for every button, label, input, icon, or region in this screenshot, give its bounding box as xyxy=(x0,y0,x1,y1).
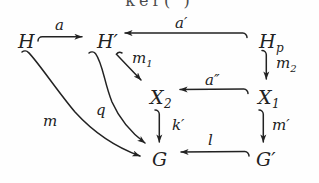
edge-label-a-prime-base: a xyxy=(175,14,184,32)
edge-a-path xyxy=(38,37,82,41)
node-X1-base: X xyxy=(258,86,272,108)
edge-m-path xyxy=(22,51,140,156)
edge-label-m-prime-primes: ′ xyxy=(286,116,289,134)
edge-a-double-prime-path xyxy=(180,89,248,93)
edge-label-m2-subscript: 2 xyxy=(290,63,296,74)
node-X2-subscript: 2 xyxy=(164,97,172,111)
node-G-prime: G′ xyxy=(256,150,276,169)
node-H-prime-mark: ′ xyxy=(114,30,118,52)
node-X1-subscript: 1 xyxy=(272,97,280,111)
edge-label-m-prime: m′ xyxy=(272,118,290,133)
edge-label-a-base: a xyxy=(55,16,64,34)
edge-label-a-double-prime-primes: ″ xyxy=(214,71,220,89)
edge-m-prime-path xyxy=(259,110,263,142)
node-X2: X2 xyxy=(150,88,172,110)
node-X2-base: X xyxy=(150,86,164,108)
edge-label-m-prime-base: m xyxy=(272,116,286,134)
edge-label-m2-base: m xyxy=(276,54,290,72)
edge-label-m1-subscript: 1 xyxy=(146,58,152,69)
edge-m2-path xyxy=(262,51,266,80)
node-G: G xyxy=(152,150,167,169)
node-H-base: H xyxy=(18,30,35,52)
node-X1: X1 xyxy=(258,88,280,110)
node-H-sub-p-base: H xyxy=(259,30,276,52)
edge-label-m2: m2 xyxy=(276,56,297,74)
edge-label-l: l xyxy=(208,133,213,148)
edge-label-m: m xyxy=(43,114,57,129)
node-G-base: G xyxy=(152,148,167,170)
edge-label-q-base: q xyxy=(96,101,106,119)
edge-l-path xyxy=(181,152,249,156)
edge-label-m1: m1 xyxy=(132,51,153,69)
edge-label-k-prime-base: k xyxy=(172,116,181,134)
edge-label-q: q xyxy=(96,103,106,118)
edge-label-k-prime: k′ xyxy=(172,118,185,133)
edge-label-m-base: m xyxy=(43,112,57,130)
edge-label-m1-base: m xyxy=(132,49,146,67)
node-H-sub-p: Hp xyxy=(259,32,284,54)
edge-label-k-prime-primes: ′ xyxy=(181,116,184,134)
edge-label-a-double-prime-base: a xyxy=(205,71,214,89)
node-G-prime-mark: ′ xyxy=(271,148,275,170)
node-H: H xyxy=(18,32,35,51)
edge-label-a: a xyxy=(55,18,64,33)
edge-label-l-base: l xyxy=(208,131,213,149)
node-H-prime: H′ xyxy=(97,32,118,51)
edge-k-prime-path xyxy=(155,110,159,142)
edge-label-a-double-prime: a″ xyxy=(205,73,220,88)
edge-label-a-prime: a′ xyxy=(175,16,187,31)
node-G-prime-base: G xyxy=(256,148,271,170)
edge-label-a-prime-primes: ′ xyxy=(184,14,187,32)
edge-a-prime-path xyxy=(125,33,247,37)
node-H-prime-base: H xyxy=(97,30,114,52)
figure-commutative-diagram: ker( ) xyxy=(0,0,319,183)
